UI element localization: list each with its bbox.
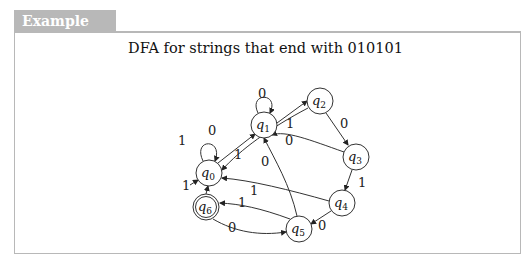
edge-q3-q1 [272,134,344,152]
start-arrow [190,180,198,185]
edge-q5-q1 [264,138,297,216]
label-q4-q0: 1 [250,183,258,198]
edge-q3-q4 [345,170,352,190]
label-q4-q5: 0 [318,218,326,233]
label-q5-q6: 1 [238,195,246,210]
label-q2-q3: 0 [340,116,348,131]
label-q5-q1: 0 [261,154,269,169]
edge-q6-q0 [206,186,208,194]
label-q1-self: 0 [258,86,266,101]
label-q3-q1: 0 [285,133,293,148]
label-q0-q1: 0 [208,123,216,138]
label-q6-q0: 1 [182,178,190,193]
label-q2-q0: 1 [234,147,242,162]
edge-q0-self [201,144,217,161]
edge-q6-q5 [213,219,286,233]
label-q1-q2: 1 [286,116,294,131]
label-q6-q5: 0 [228,220,236,235]
label-q0-self: 1 [178,133,186,148]
edge-q5-q6 [220,203,290,219]
label-q3-q4: 1 [358,175,366,190]
dfa-diagram: q0 q1 q2 q3 q4 q5 q6 1 0 0 1 1 0 0 1 1 0… [0,0,531,266]
